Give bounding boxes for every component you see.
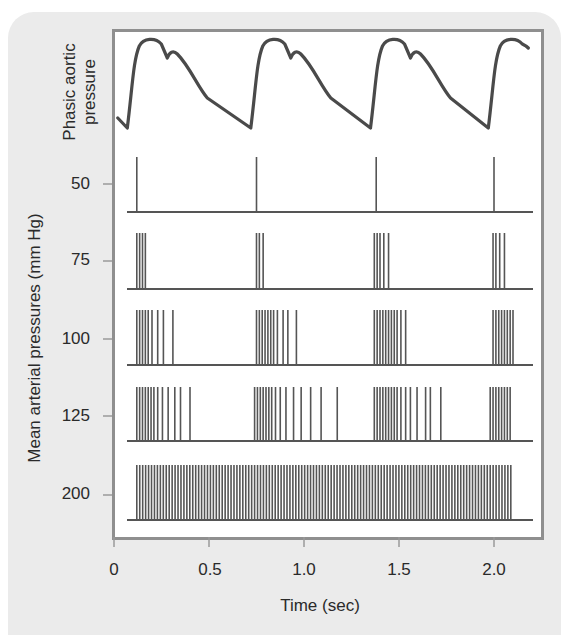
phasic-pressure-label-line1: Phasic aortic: [60, 32, 80, 152]
phasic-pressure-label: Phasic aortic pressure: [60, 32, 104, 152]
x-tick-label-0.5: 0.5: [185, 560, 235, 580]
y-tick-label-50: 50: [40, 174, 90, 194]
x-tick-label-0: 0: [89, 560, 139, 580]
spike-train-100: [127, 310, 533, 365]
y-tick-label-200: 200: [40, 484, 90, 504]
spike-train-125: [127, 387, 533, 441]
x-tick-label-1.5: 1.5: [374, 560, 424, 580]
spike-trains: [127, 157, 533, 520]
phasic-pressure-label-line2: pressure: [80, 32, 100, 152]
spike-train-75: [127, 233, 533, 289]
y-tick-label-100: 100: [40, 329, 90, 349]
y-tick-label-75: 75: [40, 250, 90, 270]
y-tick-label-125: 125: [40, 406, 90, 426]
aortic-pressure-waveform: [118, 39, 529, 128]
spike-train-200: [127, 465, 533, 520]
x-tick-label-2.0: 2.0: [469, 560, 519, 580]
spike-train-50: [127, 157, 533, 212]
phasic-aortic-pressure-trace: [118, 39, 529, 128]
x-axis-label: Time (sec): [270, 596, 370, 616]
x-tick-label-1.0: 1.0: [279, 560, 329, 580]
